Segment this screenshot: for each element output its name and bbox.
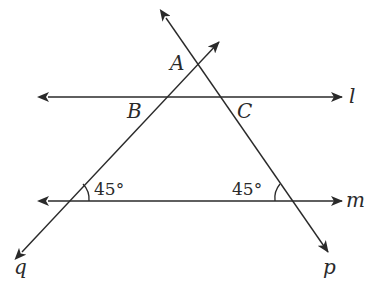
point-label-b: B (126, 99, 142, 123)
point-label-a: A (168, 51, 184, 75)
diagram-canvas: A B C l m p q 45° 45° (0, 0, 378, 299)
point-label-c: C (237, 99, 252, 123)
line-label-m: m (346, 188, 365, 212)
line-p (166, 18, 328, 252)
angle-label-right: 45° (232, 179, 262, 199)
line-label-q: q (14, 255, 27, 279)
line-q (22, 42, 219, 252)
line-label-l: l (349, 84, 355, 108)
angle-arc-right (275, 184, 280, 201)
line-label-p: p (323, 255, 336, 279)
angle-label-left: 45° (94, 179, 124, 199)
geometry-figure: A B C l m p q 45° 45° (0, 0, 378, 299)
